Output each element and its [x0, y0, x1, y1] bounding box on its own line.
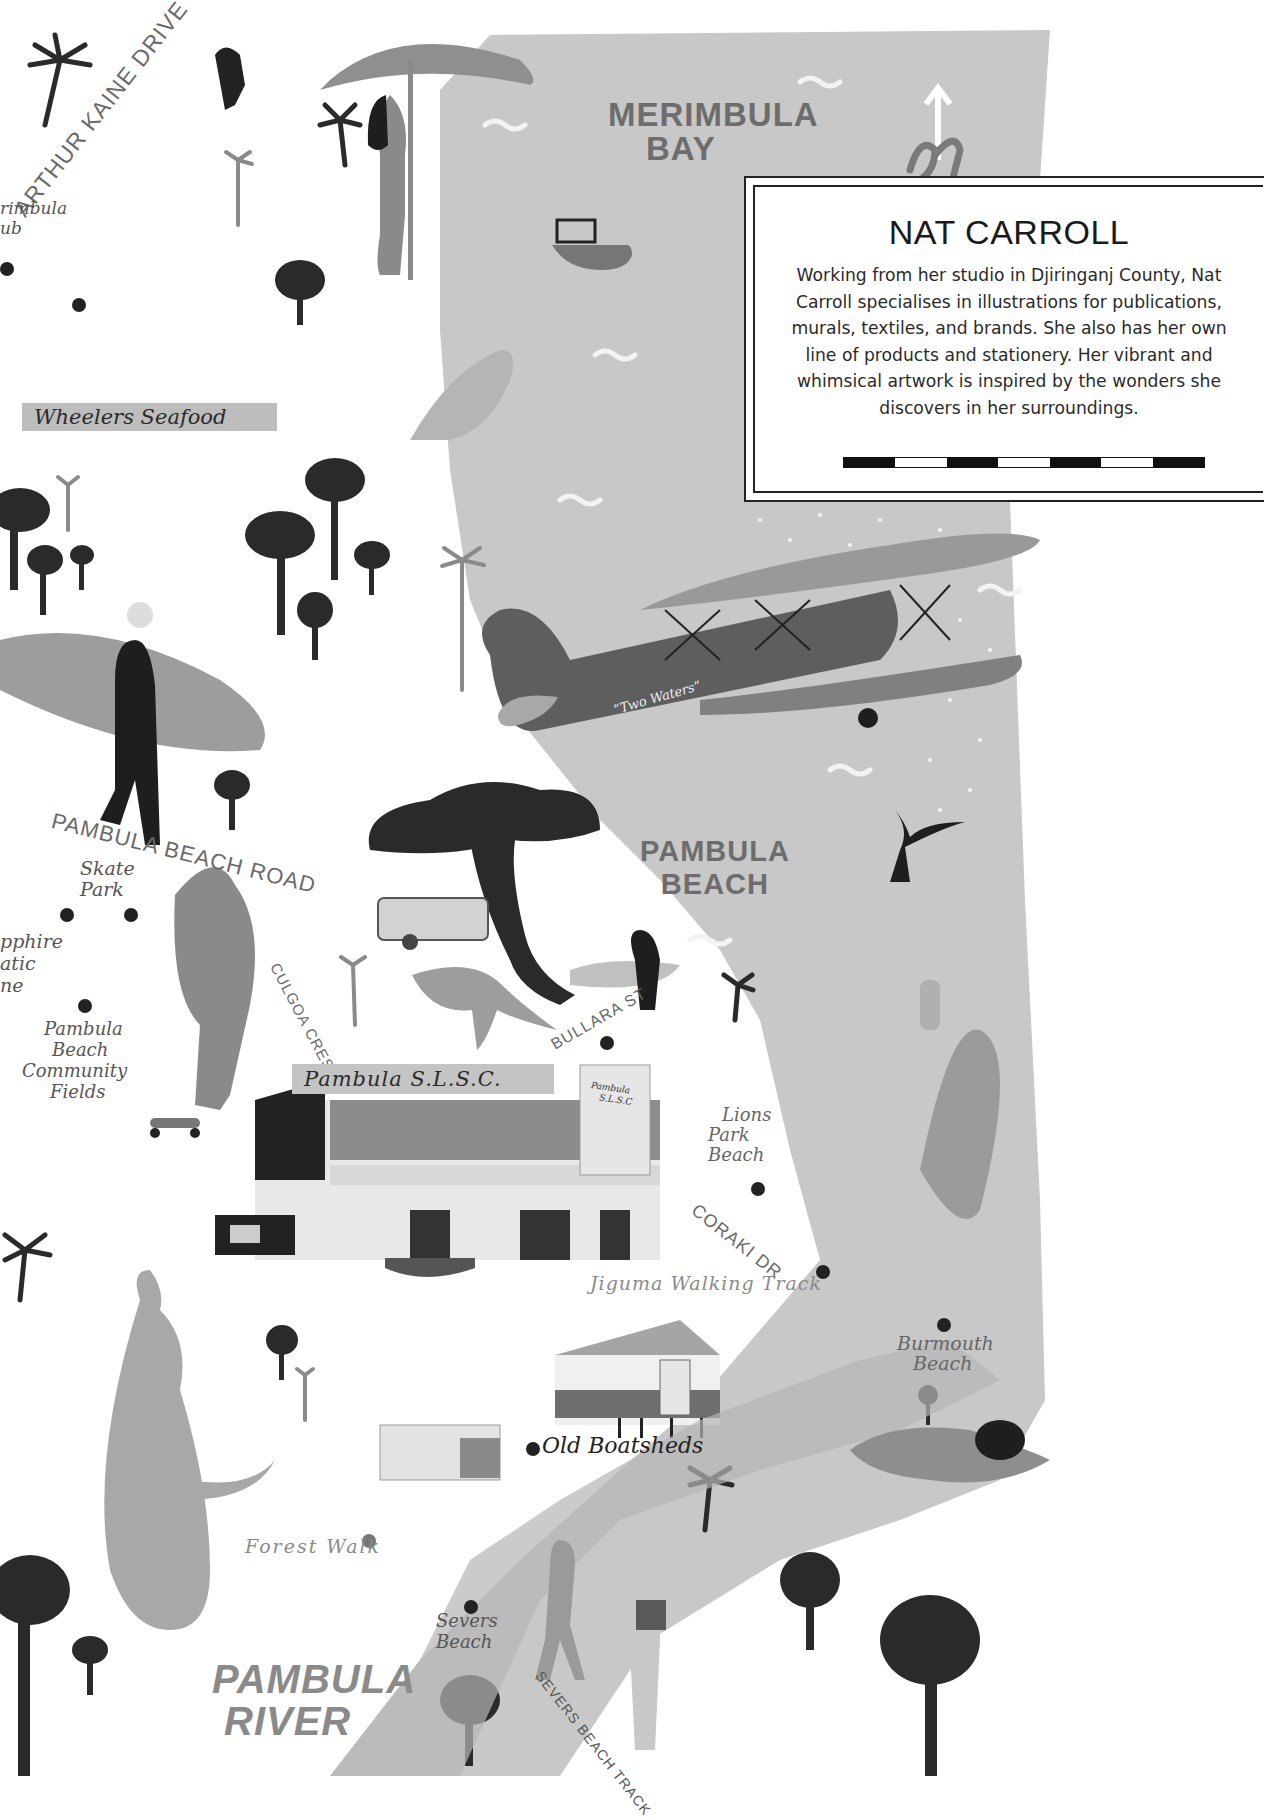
label-pambula-beach: PAMBULA BEACH: [640, 835, 790, 901]
scale-bar-segment: [998, 458, 1049, 467]
label-line: atic: [0, 952, 63, 974]
map-marker: [78, 999, 92, 1013]
label-line: MERIMBULA: [608, 98, 819, 132]
label-line: Beach: [436, 1631, 498, 1652]
label-line: Lions: [704, 1105, 771, 1125]
label-sapphire-aquatic-centre: pphire atic ne: [0, 930, 63, 996]
scale-bar-segment: [1101, 458, 1152, 467]
label-line: rimbula: [0, 198, 67, 218]
label-line: PAMBULA: [212, 1658, 416, 1700]
label-line: Beach: [897, 1353, 994, 1373]
label-skate-park: Skate Park: [80, 858, 135, 900]
label-jiguma-walking-track: Jiguma Walking Track: [590, 1272, 822, 1294]
skateboarder-woman: [174, 867, 255, 1110]
label-pambula-slsc: Pambula S.L.S.C.: [292, 1064, 554, 1094]
artist-info-box: NAT CARROLL Working from her studio in D…: [753, 185, 1263, 493]
scale-bar-segment: [1153, 458, 1204, 467]
label-line: BEACH: [640, 868, 790, 901]
label-line: Park: [80, 879, 135, 900]
scale-bar: [843, 457, 1205, 468]
map-marker: [72, 298, 86, 312]
label-line: Community: [22, 1060, 127, 1081]
label-line: Beach: [704, 1145, 771, 1165]
scale-bar-segment: [844, 458, 895, 467]
label-line: ub: [0, 218, 67, 238]
map-marker: [0, 262, 14, 276]
scale-bar-segment: [1050, 458, 1101, 467]
label-line: Burmouth: [897, 1333, 994, 1353]
label-merimbula-club: rimbula ub: [0, 198, 67, 238]
caravan: [378, 898, 488, 940]
label-line: ne: [0, 974, 63, 996]
label-wheelers-seafood: Wheelers Seafood: [22, 403, 277, 431]
map-marker: [124, 908, 138, 922]
label-line: Fields: [22, 1081, 127, 1102]
map-marker: [60, 908, 74, 922]
label-line: PAMBULA: [640, 835, 790, 868]
label-lions-park-beach: Lions Park Beach: [704, 1105, 771, 1165]
label-line: Beach: [22, 1039, 127, 1060]
scale-bar-segment: [895, 458, 946, 467]
label-line: RIVER: [212, 1700, 416, 1742]
label-pambula-beach-community-fields: Pambula Beach Community Fields: [22, 1018, 127, 1102]
label-line: pphire: [0, 930, 63, 952]
label-severs-beach: Severs Beach: [436, 1610, 498, 1652]
label-merimbula-bay: MERIMBULA BAY: [608, 98, 819, 166]
kangaroo-large: [104, 1270, 210, 1630]
scale-bar-segment: [947, 458, 998, 467]
label-burmouth-beach: Burmouth Beach: [897, 1333, 994, 1373]
map-marker: [600, 1036, 614, 1050]
label-line: Park: [704, 1125, 771, 1145]
map-marker: [937, 1318, 951, 1332]
label-forest-walk: Forest Walk: [245, 1535, 381, 1557]
label-pambula-river: PAMBULA RIVER: [212, 1658, 416, 1742]
artist-name: NAT CARROLL: [755, 213, 1263, 252]
label-line: BAY: [646, 132, 819, 166]
label-line: Pambula: [22, 1018, 127, 1039]
map-marker: [751, 1182, 765, 1196]
map-marker: [526, 1442, 540, 1456]
label-line: Skate: [80, 858, 135, 879]
label-line: Severs: [436, 1610, 498, 1631]
old-boatshed: [555, 1320, 720, 1438]
label-old-boatsheds: Old Boatsheds: [542, 1433, 703, 1458]
artist-bio: Working from her studio in Djiringanj Co…: [779, 262, 1239, 421]
